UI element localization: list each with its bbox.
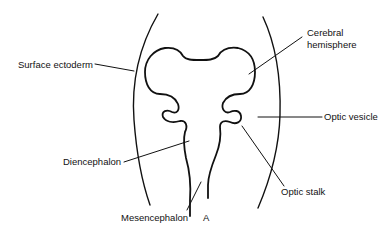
- label-cerebral-hemisphere-line1: Cerebral: [307, 27, 343, 38]
- label-cerebral-hemisphere-line2: hemisphere: [307, 39, 357, 50]
- leader-cerebral-hemisphere: [249, 37, 302, 74]
- forebrain-outline: [145, 48, 255, 216]
- panel-letter: A: [203, 212, 209, 223]
- leader-mesencephalon: [187, 182, 201, 210]
- label-optic-stalk: Optic stalk: [281, 186, 325, 197]
- leader-optic-stalk: [242, 126, 284, 186]
- leader-diencephalon: [124, 141, 189, 162]
- label-surface-ectoderm: Surface ectoderm: [18, 59, 93, 70]
- surface-ectoderm-left-arc: [133, 14, 158, 205]
- surface-ectoderm-right-arc: [258, 17, 280, 208]
- label-mesencephalon: Mesencephalon: [121, 212, 188, 223]
- leader-surface-ectoderm: [95, 64, 134, 71]
- label-diencephalon: Diencephalon: [63, 156, 121, 167]
- label-optic-vesicle: Optic vesicle: [324, 111, 378, 122]
